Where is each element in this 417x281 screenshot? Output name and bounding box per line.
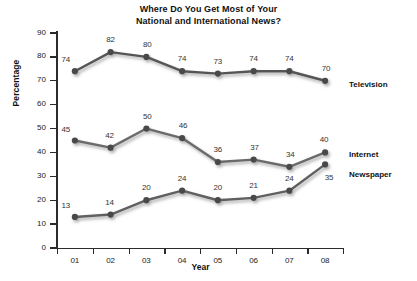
x-tick-7 xyxy=(307,248,308,254)
chart-title-line-1: Where Do You Get Most of Your xyxy=(0,3,417,15)
y-tick-70 xyxy=(50,80,56,81)
legend-label-television: Television xyxy=(349,80,388,89)
value-label: 20 xyxy=(142,183,151,192)
data-point xyxy=(108,49,114,55)
y-tick-label-40: 40 xyxy=(0,147,46,156)
value-label: 20 xyxy=(213,183,222,192)
data-point xyxy=(72,137,78,143)
data-point xyxy=(179,188,185,194)
data-point xyxy=(72,214,78,220)
y-tick-40 xyxy=(50,152,56,153)
x-tick-label-05: 05 xyxy=(203,256,233,265)
value-label: 40 xyxy=(320,135,329,144)
news-source-line-chart: Where Do You Get Most of Your National a… xyxy=(0,0,417,281)
data-point xyxy=(322,149,328,155)
data-point xyxy=(251,195,257,201)
value-label: 14 xyxy=(105,197,114,206)
value-label: 21 xyxy=(249,180,258,189)
value-label: 35 xyxy=(325,173,334,182)
y-tick-label-30: 30 xyxy=(0,171,46,180)
x-tick-label-01: 01 xyxy=(60,256,90,265)
y-tick-label-0: 0 xyxy=(0,243,46,252)
value-label: 34 xyxy=(286,149,295,158)
value-label: 82 xyxy=(106,35,115,44)
data-point xyxy=(143,197,149,203)
value-label: 70 xyxy=(322,63,331,72)
y-tick-60 xyxy=(50,104,56,105)
x-tick-label-07: 07 xyxy=(274,256,304,265)
data-point xyxy=(286,68,292,74)
data-point xyxy=(322,161,328,167)
value-label: 13 xyxy=(61,200,70,209)
chart-title-line-2: National and International News? xyxy=(0,15,417,27)
value-label: 37 xyxy=(250,142,259,151)
value-label: 73 xyxy=(213,56,222,65)
value-label: 74 xyxy=(285,54,294,63)
value-label: 50 xyxy=(143,111,152,120)
data-point xyxy=(143,125,149,131)
data-point xyxy=(322,78,328,84)
data-point xyxy=(251,68,257,74)
x-tick-8 xyxy=(343,248,344,254)
data-point xyxy=(215,159,221,165)
chart-title: Where Do You Get Most of Your National a… xyxy=(0,3,417,27)
x-tick-0 xyxy=(57,248,58,254)
x-tick-label-04: 04 xyxy=(167,256,197,265)
value-label: 24 xyxy=(178,173,187,182)
y-tick-20 xyxy=(50,200,56,201)
x-tick-label-06: 06 xyxy=(239,256,269,265)
value-label: 24 xyxy=(285,173,294,182)
data-point xyxy=(179,68,185,74)
value-label: 74 xyxy=(178,54,187,63)
plot-area xyxy=(0,0,417,281)
value-label: 42 xyxy=(105,130,114,139)
value-label: 74 xyxy=(61,55,70,64)
data-point xyxy=(72,68,78,74)
data-point xyxy=(251,157,257,163)
legend-label-newspaper: Newspaper xyxy=(349,170,392,179)
legend-label-internet: Internet xyxy=(349,150,378,159)
data-point xyxy=(286,164,292,170)
value-label: 80 xyxy=(143,39,152,48)
x-tick-3 xyxy=(164,248,165,254)
y-tick-10 xyxy=(50,223,56,224)
series-newspaper xyxy=(72,161,328,220)
y-tick-50 xyxy=(50,128,56,129)
y-tick-label-60: 60 xyxy=(0,99,46,108)
x-tick-1 xyxy=(93,248,94,254)
y-tick-30 xyxy=(50,176,56,177)
y-tick-label-70: 70 xyxy=(0,75,46,84)
x-tick-2 xyxy=(129,248,130,254)
x-tick-label-03: 03 xyxy=(131,256,161,265)
data-point xyxy=(286,188,292,194)
y-tick-90 xyxy=(50,32,56,33)
y-axis-line xyxy=(56,31,58,249)
y-tick-label-10: 10 xyxy=(0,219,46,228)
data-point xyxy=(179,135,185,141)
x-tick-label-02: 02 xyxy=(96,256,126,265)
value-label: 74 xyxy=(249,54,258,63)
data-point xyxy=(215,71,221,77)
value-label: 45 xyxy=(61,124,70,133)
y-tick-0 xyxy=(50,247,56,248)
y-tick-label-50: 50 xyxy=(0,123,46,132)
data-point xyxy=(143,54,149,60)
x-tick-6 xyxy=(272,248,273,254)
y-tick-label-90: 90 xyxy=(0,28,46,37)
value-label: 36 xyxy=(213,145,222,154)
x-tick-5 xyxy=(236,248,237,254)
data-point xyxy=(215,197,221,203)
x-tick-label-08: 08 xyxy=(310,256,340,265)
y-tick-label-80: 80 xyxy=(0,51,46,60)
data-point xyxy=(108,145,114,151)
y-tick-80 xyxy=(50,56,56,57)
x-tick-4 xyxy=(200,248,201,254)
data-point xyxy=(108,211,114,217)
y-tick-label-20: 20 xyxy=(0,195,46,204)
value-label: 46 xyxy=(179,121,188,130)
